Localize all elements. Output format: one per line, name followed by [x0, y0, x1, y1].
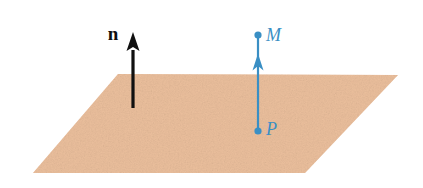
- figure-container: n M P: [0, 0, 423, 188]
- point-p-dot: [254, 127, 261, 134]
- point-m-dot: [254, 31, 261, 38]
- normal-vector-label: n: [108, 23, 119, 44]
- plane-group: [33, 74, 398, 173]
- point-p-label: P: [265, 119, 277, 139]
- geometry-diagram: n M P: [0, 0, 423, 188]
- plane-texture-overlay: [33, 74, 398, 173]
- point-m-label: M: [265, 25, 282, 45]
- normal-vector-arrowhead: [127, 32, 140, 51]
